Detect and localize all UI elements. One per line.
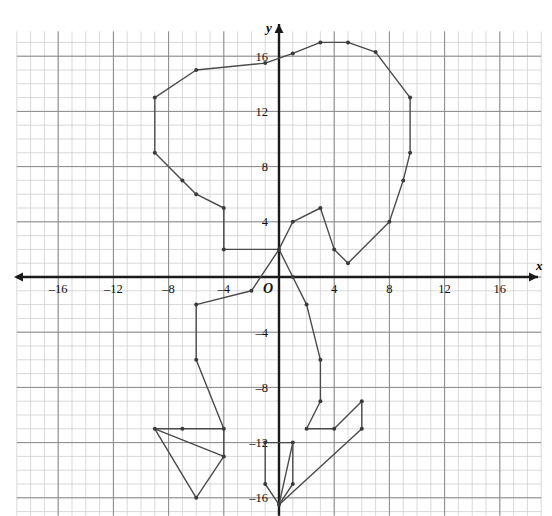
vertex-point [153,427,157,431]
vertex-point [408,96,412,100]
vertex-point [222,206,226,210]
vertex-point [318,358,322,362]
coordinate-plane-figure: –16–12–8–4481216161284–4–8–12–16O x y [0,0,552,516]
vertex-point [194,192,198,196]
vertex-point [194,68,198,72]
vertex-point [180,178,184,182]
vertex-point [291,441,295,445]
vertex-point [263,61,267,65]
y-tick-label: –8 [255,381,269,395]
vertex-point [263,441,267,445]
y-tick-label: 8 [262,160,268,174]
vertex-point [180,427,184,431]
vertex-point [153,96,157,100]
vertex-point [374,50,378,54]
x-tick-label: –12 [103,282,123,296]
x-tick-label: 16 [494,282,507,296]
y-tick-label: 4 [262,215,269,229]
vertex-point [401,178,405,182]
x-tick-label: –4 [217,282,231,296]
vertex-point [222,427,226,431]
vertex-point [249,289,253,293]
vertex-point [291,51,295,55]
vertex-point [318,206,322,210]
vertex-point [360,399,364,403]
vertex-point [408,151,412,155]
vertex-point [346,261,350,265]
vertex-point [318,40,322,44]
vertex-point [263,482,267,486]
vertex-point [222,247,226,251]
vertex-point [305,427,309,431]
y-axis-arrowhead [275,24,284,33]
y-tick-label: –4 [255,326,269,340]
vertex-point [318,399,322,403]
origin-label: O [263,281,273,296]
vertex-point [153,151,157,155]
y-axis-label: y [266,20,272,36]
vertex-point [305,303,309,307]
vertex-point [346,40,350,44]
x-tick-label: 12 [438,282,451,296]
vertex-point [194,496,198,500]
vertex-point [387,220,391,224]
y-tick-label: 12 [256,105,269,119]
x-axis-label: x [536,258,543,274]
x-tick-label: –8 [161,282,175,296]
x-tick-label: 4 [331,282,338,296]
vertex-point [332,247,336,251]
y-tick-label: –16 [248,491,268,505]
x-tick-label: –16 [48,282,68,296]
vertex-point [222,454,226,458]
x-tick-label: 8 [386,282,392,296]
vertex-point [194,303,198,307]
coordinate-plot-svg: –16–12–8–4481216161284–4–8–12–16O [0,0,552,516]
vertex-point [291,220,295,224]
vertex-point [291,482,295,486]
vertex-point [277,247,281,251]
vertex-point [360,427,364,431]
vertex-point [277,503,281,507]
vertex-point [194,358,198,362]
vertex-point [332,427,336,431]
vertex-point [291,275,295,279]
